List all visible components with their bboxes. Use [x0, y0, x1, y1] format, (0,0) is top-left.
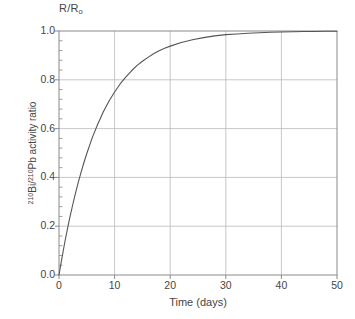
y-axis-tick-label: 1.0	[25, 25, 55, 36]
y-axis-tick-labels: 0.00.20.40.60.81.0	[22, 0, 55, 319]
y-axis-major-ticks	[55, 31, 59, 275]
y-axis-tick-label: 0.6	[25, 123, 55, 134]
x-axis-tick-label: 20	[152, 279, 188, 291]
plot-frame	[59, 31, 337, 275]
x-axis-label: Time (days)	[59, 296, 337, 308]
chart-axis-title-main: R/R	[59, 2, 79, 14]
data-series-line	[59, 31, 337, 275]
chart-axis-title-ratio: R/Ro	[59, 2, 83, 14]
x-axis-tick-label: 40	[263, 279, 299, 291]
y-axis-tick-label: 0.2	[25, 220, 55, 231]
x-axis-tick-label: 50	[319, 279, 355, 291]
x-axis-tick-label: 0	[41, 279, 77, 291]
x-axis-tick-label: 10	[97, 279, 133, 291]
x-axis-tick-label: 30	[208, 279, 244, 291]
y-axis-tick-label: 0.4	[25, 171, 55, 182]
chart-figure: R/Ro 210Bi/210Pb activity ratio 0.00.20.…	[0, 0, 355, 319]
y-axis-minor-ticks	[59, 41, 63, 265]
y-axis-tick-label: 0.8	[25, 74, 55, 85]
chart-axis-title-subscript: o	[79, 7, 83, 16]
grid-lines	[59, 31, 337, 275]
